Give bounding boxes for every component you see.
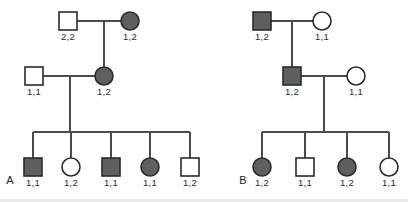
a-i-1-genotype-label: 2,2: [61, 31, 75, 42]
connectors-layer: [33, 21, 389, 158]
b-iii-3-symbol: [338, 158, 356, 176]
a-ii-1-genotype-label: 1,1: [27, 86, 41, 97]
b-iii-2-symbol: [296, 158, 314, 176]
b-iii-1-genotype-label: 1,2: [255, 177, 269, 188]
b-ii-2-genotype-label: 1,1: [349, 86, 363, 97]
a-iii-5-symbol: [181, 158, 199, 176]
a-iii-5-genotype-label: 1,2: [183, 177, 197, 188]
a-ii-1-symbol: [25, 67, 43, 85]
a-iii-1-symbol: [24, 158, 42, 176]
b-i-1-symbol: [253, 12, 271, 30]
a-i-2-genotype-label: 1,2: [123, 31, 137, 42]
pedigree-canvas: 2,21,21,11,21,11,21,11,11,2A1,21,11,21,1…: [0, 0, 408, 202]
panel-letter-b: B: [239, 174, 246, 186]
b-ii-2-symbol: [347, 67, 365, 85]
a-ii-2-symbol: [95, 67, 113, 85]
a-iii-3-genotype-label: 1,1: [104, 177, 118, 188]
b-iii-2-genotype-label: 1,1: [298, 177, 312, 188]
a-iii-2-genotype-label: 1,2: [64, 177, 78, 188]
a-iii-4-genotype-label: 1,1: [143, 177, 157, 188]
a-i-2-symbol: [121, 12, 139, 30]
a-iii-4-symbol: [141, 158, 159, 176]
a-i-1-symbol: [59, 12, 77, 30]
a-iii-3-symbol: [102, 158, 120, 176]
figure-bottom-edge: [0, 199, 408, 202]
a-iii-2-symbol: [62, 158, 80, 176]
panel-letter-a: A: [6, 174, 14, 186]
a-iii-1-genotype-label: 1,1: [26, 177, 40, 188]
b-iii-3-genotype-label: 1,2: [340, 177, 354, 188]
symbols-layer: [24, 12, 398, 176]
b-ii-1-genotype-label: 1,2: [285, 86, 299, 97]
pedigree-figure: 2,21,21,11,21,11,21,11,11,2A1,21,11,21,1…: [0, 0, 408, 202]
b-i-2-symbol: [313, 12, 331, 30]
a-ii-2-genotype-label: 1,2: [97, 86, 111, 97]
b-iii-1-symbol: [253, 158, 271, 176]
b-iii-4-genotype-label: 1,1: [382, 177, 396, 188]
b-ii-1-symbol: [283, 67, 301, 85]
b-i-2-genotype-label: 1,1: [315, 31, 329, 42]
b-iii-4-symbol: [380, 158, 398, 176]
b-i-1-genotype-label: 1,2: [255, 31, 269, 42]
